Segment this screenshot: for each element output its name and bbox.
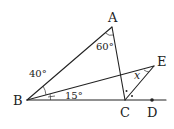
label-b: B <box>13 93 23 108</box>
angle-arc-x <box>144 70 149 72</box>
angle-label-a: 60° <box>96 41 114 52</box>
label-e: E <box>157 54 167 69</box>
label-a: A <box>107 10 118 25</box>
angle-label-15: 15° <box>65 90 83 101</box>
point-d-marker <box>150 98 154 102</box>
label-d: D <box>147 105 157 120</box>
equal-angle-dot-1 <box>126 90 128 92</box>
geometry-diagram: A B C D E 60° 40° 15° x <box>0 0 174 129</box>
equal-angle-dot-2 <box>131 95 133 97</box>
angle-arc-a <box>106 33 114 35</box>
angle-tick-ebc <box>48 96 55 97</box>
angle-arc-abe <box>43 86 46 95</box>
segment-ac <box>112 27 125 100</box>
angle-label-40: 40° <box>29 68 47 79</box>
angle-label-x: x <box>134 69 141 82</box>
label-c: C <box>120 105 130 120</box>
